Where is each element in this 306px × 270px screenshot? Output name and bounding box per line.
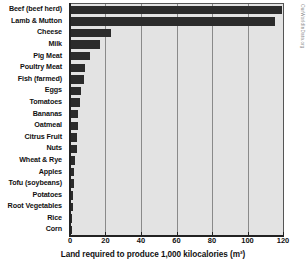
x-tick-label: 80 bbox=[208, 236, 216, 245]
category-axis-labels: Beef (beef herd)Lamb & MuttonCheeseMilkP… bbox=[0, 3, 66, 235]
bar-row bbox=[70, 108, 283, 120]
bar-row bbox=[70, 16, 283, 28]
category-label: Root Vegetables bbox=[0, 200, 66, 212]
category-label: Poultry Meat bbox=[0, 61, 66, 73]
category-label: Lamb & Mutton bbox=[0, 15, 66, 27]
bar bbox=[70, 64, 85, 72]
bar-row bbox=[70, 97, 283, 109]
category-label: Milk bbox=[0, 38, 66, 50]
bar bbox=[70, 156, 75, 164]
bar bbox=[70, 6, 282, 14]
x-tick-label: 60 bbox=[172, 236, 180, 245]
category-label: Apples bbox=[0, 165, 66, 177]
x-tick-label: 100 bbox=[241, 236, 254, 245]
bar bbox=[70, 40, 100, 48]
source-watermark: OurWorldInData.org bbox=[300, 4, 305, 49]
bar bbox=[70, 133, 77, 141]
category-label: Wheat & Rye bbox=[0, 154, 66, 166]
bar-row bbox=[70, 4, 283, 16]
bar bbox=[70, 29, 111, 37]
bar bbox=[70, 17, 275, 25]
category-label: Oatmeal bbox=[0, 119, 66, 131]
bar-row bbox=[70, 50, 283, 62]
bar-row bbox=[70, 27, 283, 39]
category-label: Rice bbox=[0, 212, 66, 224]
category-label: Bananas bbox=[0, 107, 66, 119]
bar-row bbox=[70, 178, 283, 190]
bar-row bbox=[70, 190, 283, 202]
bar-row bbox=[70, 132, 283, 144]
bar-row bbox=[70, 62, 283, 74]
land-use-bar-chart: Beef (beef herd)Lamb & MuttonCheeseMilkP… bbox=[0, 0, 306, 270]
bar bbox=[70, 145, 77, 153]
bar-row bbox=[70, 166, 283, 178]
x-tick-label: 0 bbox=[68, 236, 72, 245]
bar bbox=[70, 168, 74, 176]
category-label: Tomatoes bbox=[0, 96, 66, 108]
bar bbox=[70, 110, 78, 118]
category-label: Fish (farmed) bbox=[0, 73, 66, 85]
x-tick-label: 20 bbox=[101, 236, 109, 245]
category-label: Tofu (soybeans) bbox=[0, 177, 66, 189]
category-label: Citrus Fruit bbox=[0, 131, 66, 143]
bar bbox=[70, 98, 80, 106]
bar-row bbox=[70, 85, 283, 97]
bar bbox=[70, 191, 73, 199]
x-tick-label: 120 bbox=[277, 236, 290, 245]
y-axis-line bbox=[69, 3, 71, 236]
bar bbox=[70, 179, 74, 187]
bar-row bbox=[70, 39, 283, 51]
bar bbox=[70, 75, 84, 83]
x-tick-label: 40 bbox=[137, 236, 145, 245]
bar bbox=[70, 52, 90, 60]
bar-row bbox=[70, 201, 283, 213]
bar-row bbox=[70, 120, 283, 132]
x-axis-ticks: 020406080100120 bbox=[70, 236, 283, 250]
category-label: Cheese bbox=[0, 26, 66, 38]
bar-row bbox=[70, 155, 283, 167]
category-label: Beef (beef herd) bbox=[0, 3, 66, 15]
bar-row bbox=[70, 213, 283, 225]
bar-series bbox=[70, 4, 283, 236]
category-label: Corn bbox=[0, 223, 66, 235]
category-label: Nuts bbox=[0, 142, 66, 154]
plot-area bbox=[70, 3, 284, 236]
bar-row bbox=[70, 74, 283, 86]
bar-row bbox=[70, 143, 283, 155]
bar bbox=[70, 87, 81, 95]
category-label: Potatoes bbox=[0, 189, 66, 201]
x-axis-title: Land required to produce 1,000 kilocalor… bbox=[0, 250, 306, 259]
category-label: Pig Meat bbox=[0, 49, 66, 61]
bar bbox=[70, 122, 78, 130]
category-label: Eggs bbox=[0, 84, 66, 96]
